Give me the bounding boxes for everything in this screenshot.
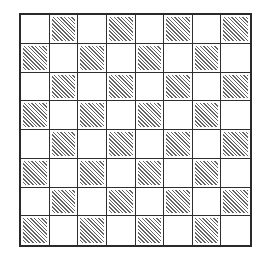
white-square bbox=[78, 130, 107, 159]
checkerboard-grid bbox=[19, 13, 252, 247]
white-square bbox=[78, 73, 107, 102]
hatched-square bbox=[193, 216, 222, 245]
white-square bbox=[21, 15, 50, 44]
white-square bbox=[221, 216, 250, 245]
white-square bbox=[50, 101, 79, 130]
hatched-square bbox=[193, 44, 222, 73]
white-square bbox=[78, 15, 107, 44]
hatched-square bbox=[136, 44, 165, 73]
white-square bbox=[21, 188, 50, 217]
white-square bbox=[164, 44, 193, 73]
white-square bbox=[21, 73, 50, 102]
white-square bbox=[164, 159, 193, 188]
hatched-square bbox=[50, 15, 79, 44]
hatched-square bbox=[136, 216, 165, 245]
white-square bbox=[136, 15, 165, 44]
hatched-square bbox=[78, 159, 107, 188]
white-square bbox=[136, 130, 165, 159]
white-square bbox=[193, 73, 222, 102]
hatched-square bbox=[136, 159, 165, 188]
white-square bbox=[50, 216, 79, 245]
hatched-square bbox=[21, 216, 50, 245]
hatched-square bbox=[164, 130, 193, 159]
white-square bbox=[50, 159, 79, 188]
white-square bbox=[21, 130, 50, 159]
hatched-square bbox=[21, 101, 50, 130]
hatched-square bbox=[221, 130, 250, 159]
hatched-square bbox=[193, 101, 222, 130]
hatched-square bbox=[107, 188, 136, 217]
hatched-square bbox=[221, 188, 250, 217]
white-square bbox=[107, 44, 136, 73]
hatched-square bbox=[107, 130, 136, 159]
white-square bbox=[136, 73, 165, 102]
white-square bbox=[193, 130, 222, 159]
hatched-square bbox=[50, 188, 79, 217]
hatched-square bbox=[78, 216, 107, 245]
white-square bbox=[164, 101, 193, 130]
hatched-square bbox=[107, 15, 136, 44]
white-square bbox=[107, 101, 136, 130]
white-square bbox=[50, 44, 79, 73]
hatched-square bbox=[164, 15, 193, 44]
hatched-square bbox=[78, 44, 107, 73]
white-square bbox=[193, 15, 222, 44]
white-square bbox=[136, 188, 165, 217]
white-square bbox=[107, 159, 136, 188]
hatched-square bbox=[50, 130, 79, 159]
hatched-square bbox=[21, 159, 50, 188]
hatched-square bbox=[107, 73, 136, 102]
white-square bbox=[221, 44, 250, 73]
hatched-square bbox=[21, 44, 50, 73]
hatched-square bbox=[164, 73, 193, 102]
white-square bbox=[164, 216, 193, 245]
white-square bbox=[78, 188, 107, 217]
white-square bbox=[221, 101, 250, 130]
white-square bbox=[221, 159, 250, 188]
hatched-square bbox=[136, 101, 165, 130]
hatched-square bbox=[50, 73, 79, 102]
white-square bbox=[107, 216, 136, 245]
hatched-square bbox=[221, 15, 250, 44]
hatched-square bbox=[221, 73, 250, 102]
white-square bbox=[193, 188, 222, 217]
hatched-square bbox=[164, 188, 193, 217]
hatched-square bbox=[193, 159, 222, 188]
hatched-square bbox=[78, 101, 107, 130]
